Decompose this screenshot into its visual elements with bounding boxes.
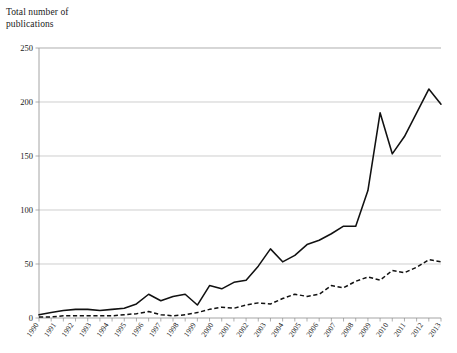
x-tick-label: 1995 — [112, 321, 128, 339]
x-tick-label: 1998 — [164, 321, 180, 339]
y-tick-label: 150 — [20, 151, 33, 161]
series-dashed-line — [39, 260, 441, 317]
series-solid-line — [39, 89, 441, 315]
x-tick-label: 2012 — [409, 321, 425, 339]
x-tick-label: 2003 — [252, 321, 268, 339]
y-axis-ticks-group: 050100150200250 — [20, 43, 39, 323]
axis-lines-group — [39, 48, 441, 318]
x-axis-labels-group: 1990199119921993199419951996199719981999… — [25, 321, 443, 339]
y-tick-label: 100 — [20, 205, 33, 215]
x-tick-label: 1997 — [147, 321, 163, 339]
x-tick-label: 2013 — [427, 321, 443, 339]
x-tick-label: 2000 — [199, 321, 215, 339]
gridlines-group — [39, 48, 441, 264]
x-tick-label: 2009 — [357, 321, 373, 339]
x-tick-label: 2011 — [392, 321, 408, 339]
x-tick-label: 1993 — [77, 321, 93, 339]
x-tick-label: 1999 — [182, 321, 198, 339]
y-tick-label: 200 — [20, 97, 33, 107]
x-tick-label: 2006 — [304, 321, 320, 339]
x-tick-label: 2005 — [287, 321, 303, 339]
x-tick-label: 2004 — [269, 321, 285, 339]
chart-canvas: 050100150200250 199019911992199319941995… — [0, 0, 457, 353]
x-tick-label: 1992 — [60, 321, 76, 339]
x-tick-label: 2010 — [374, 321, 390, 339]
publications-line-chart: Total number of publications 05010015020… — [0, 0, 457, 353]
x-tick-label: 1990 — [25, 321, 41, 339]
x-tick-label: 2007 — [322, 321, 338, 339]
x-tick-label: 2008 — [339, 321, 355, 339]
x-tick-label: 2002 — [234, 321, 250, 339]
x-tick-label: 1994 — [94, 321, 110, 339]
x-axis-ticks-group — [39, 318, 441, 322]
x-tick-label: 1996 — [129, 321, 145, 339]
x-tick-label: 1991 — [42, 321, 58, 339]
y-tick-label: 50 — [25, 259, 34, 269]
x-tick-label: 2001 — [217, 321, 233, 339]
y-tick-label: 250 — [20, 43, 33, 53]
